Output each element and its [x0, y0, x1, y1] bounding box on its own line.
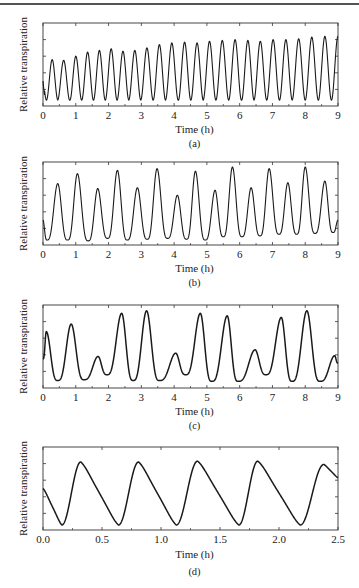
x-tick-label: 5 [204, 391, 210, 403]
figure-canvas: 0123456789Relative transpirationTime (h)… [0, 0, 359, 588]
x-tick-label: 3 [139, 248, 145, 260]
x-tick-label: 0 [40, 109, 46, 121]
panel-caption: (a) [189, 138, 201, 150]
panel-b: 0123456789Relative transpirationTime (h)… [17, 156, 341, 289]
panel-c: 0123456789Relative transpirationTime (h)… [17, 299, 341, 432]
x-tick-label: 0.5 [95, 533, 109, 545]
x-tick-label: 9 [335, 109, 341, 121]
x-tick-label: 5 [204, 109, 210, 121]
x-tick-label: 0 [40, 248, 46, 260]
transpiration-curve [43, 36, 338, 100]
x-tick-label: 8 [302, 248, 308, 260]
x-axis-title: Time (h) [175, 262, 214, 275]
x-tick-label: 1 [73, 248, 79, 260]
panel-caption: (c) [189, 420, 201, 432]
transpiration-curve [43, 461, 338, 525]
x-axis-title: Time (h) [175, 123, 214, 136]
panel-d: 0.00.51.01.52.02.5Relative transpiration… [17, 441, 345, 578]
panel-caption: (d) [188, 566, 201, 578]
x-tick-label: 2.0 [272, 533, 286, 545]
transpiration-curve [43, 167, 338, 241]
y-axis-title: Relative transpiration [17, 156, 29, 251]
x-axis-title: Time (h) [175, 405, 214, 418]
x-tick-label: 2 [106, 391, 112, 403]
panel-a: 0123456789Relative transpirationTime (h)… [17, 17, 341, 150]
plot-frame [43, 162, 338, 245]
x-tick-label: 9 [335, 391, 341, 403]
transpiration-curve [43, 311, 338, 382]
x-tick-label: 1.5 [213, 533, 227, 545]
y-axis-title: Relative transpiration [17, 17, 29, 112]
x-tick-label: 2 [106, 248, 112, 260]
x-tick-label: 4 [171, 391, 177, 403]
x-tick-label: 0.0 [36, 533, 50, 545]
y-axis-title: Relative transpiration [17, 441, 29, 536]
plot-frame [43, 305, 338, 388]
x-tick-label: 3 [139, 391, 145, 403]
x-tick-label: 8 [302, 391, 308, 403]
x-tick-label: 7 [270, 109, 276, 121]
x-axis-title: Time (h) [175, 548, 214, 561]
y-axis-title: Relative transpiration [17, 299, 29, 394]
x-tick-label: 2.5 [331, 533, 345, 545]
x-tick-label: 1.0 [154, 533, 168, 545]
x-tick-label: 6 [237, 391, 243, 403]
x-tick-label: 1 [73, 391, 79, 403]
x-tick-label: 4 [171, 109, 177, 121]
panel-caption: (b) [188, 277, 201, 289]
x-tick-label: 9 [335, 248, 341, 260]
x-tick-label: 6 [237, 248, 243, 260]
x-tick-label: 8 [302, 109, 308, 121]
x-tick-label: 0 [40, 391, 46, 403]
x-tick-label: 2 [106, 109, 112, 121]
x-tick-label: 5 [204, 248, 210, 260]
x-tick-label: 1 [73, 109, 79, 121]
x-tick-label: 3 [139, 109, 145, 121]
x-tick-label: 7 [270, 248, 276, 260]
x-tick-label: 4 [171, 248, 177, 260]
x-tick-label: 7 [270, 391, 276, 403]
x-tick-label: 6 [237, 109, 243, 121]
